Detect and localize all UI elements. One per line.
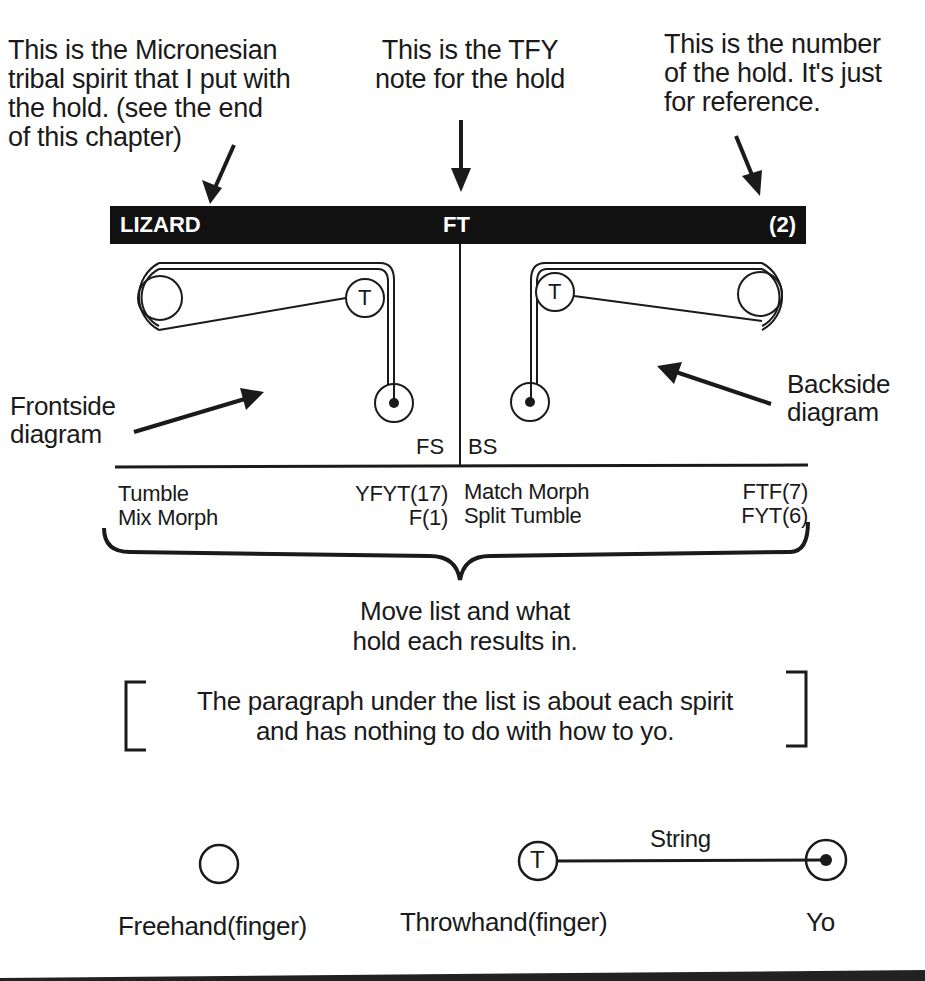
legend-yo-label: Yo	[806, 908, 835, 936]
frontside-tag: FS	[416, 435, 444, 459]
freehand-finger-icon	[138, 276, 182, 320]
yo-axle-icon	[525, 397, 535, 407]
frontside-label: Frontside diagram	[10, 392, 116, 448]
yo-axle-icon	[389, 398, 399, 408]
throwhand-letter-fs: T	[358, 286, 371, 310]
move-list-rule	[115, 465, 808, 467]
legend-throwhand-letter: T	[530, 848, 545, 872]
label-line: Backside	[787, 370, 890, 398]
freehand-finger-icon	[738, 272, 782, 316]
caption-line: Move list and what	[300, 596, 630, 626]
move-row: Split Tumble FYT(6)	[464, 504, 808, 528]
page-edge	[0, 970, 925, 981]
move-name: Tumble	[118, 482, 189, 506]
backside-tag: BS	[468, 435, 497, 459]
legend-throwhand-label: Throwhand(finger)	[400, 908, 607, 936]
backside-label: Backside diagram	[787, 370, 890, 426]
move-name: Mix Morph	[118, 506, 218, 530]
move-list-left: Tumble YFYT(17) Mix Morph F(1)	[118, 482, 448, 530]
legend-freehand-icon	[200, 845, 238, 883]
note-line: and has nothing to do with how to yo.	[130, 716, 800, 746]
move-result: F(1)	[409, 506, 448, 530]
move-result: FYT(6)	[741, 504, 808, 528]
frontside-arrow-icon	[134, 388, 264, 432]
move-row: Mix Morph F(1)	[118, 506, 448, 530]
throwhand-letter-bs: T	[548, 280, 561, 304]
caption-line: hold each results in.	[300, 626, 630, 656]
note-line: The paragraph under the list is about ea…	[130, 686, 800, 716]
move-name: Match Morph	[464, 480, 589, 504]
legend-string-line	[557, 860, 826, 861]
backside-arrow-icon	[657, 362, 771, 404]
move-list-right: Match Morph FTF(7) Split Tumble FYT(6)	[464, 480, 808, 528]
frontside-diagram	[138, 263, 413, 422]
move-row: Tumble YFYT(17)	[118, 482, 448, 506]
move-result: YFYT(17)	[355, 482, 448, 506]
label-line: Frontside	[10, 392, 116, 420]
spirit-arrow-icon	[202, 145, 234, 204]
move-name: Split Tumble	[464, 504, 581, 528]
move-list-brace	[104, 522, 808, 580]
label-line: diagram	[10, 420, 116, 448]
paragraph-note: The paragraph under the list is about ea…	[130, 686, 800, 746]
legend-freehand-label: Freehand(finger)	[118, 912, 307, 940]
move-list-caption: Move list and what hold each results in.	[300, 596, 630, 656]
number-arrow-icon	[736, 136, 762, 196]
tfy-arrow-icon	[451, 120, 471, 192]
move-row: Match Morph FTF(7)	[464, 480, 808, 504]
move-result: FTF(7)	[743, 480, 808, 504]
legend-yo-axle-icon	[820, 854, 832, 866]
label-line: diagram	[787, 398, 890, 426]
legend-string-label: String	[650, 825, 711, 853]
